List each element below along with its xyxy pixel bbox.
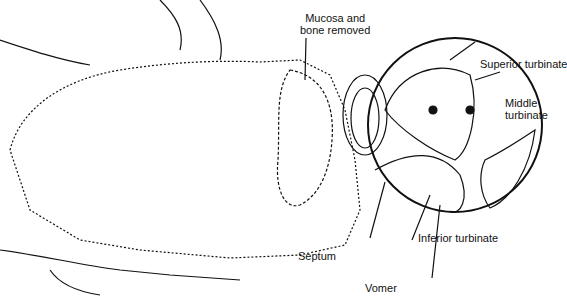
label-line-2: bone removed: [300, 24, 370, 36]
label-superior-turbinate: Superior turbinate: [480, 58, 567, 70]
label-septum: Septum: [298, 250, 336, 262]
label-middle-turbinate: Middle turbinate: [505, 97, 548, 121]
label-line-2: turbinate: [505, 109, 548, 121]
label-inferior-turbinate: Inferior turbinate: [418, 232, 498, 244]
label-line-1: Mucosa and: [300, 12, 370, 24]
label-vomer: Vomer: [365, 282, 397, 294]
label-mucosa-bone-removed: Mucosa and bone removed: [300, 12, 370, 36]
label-line-1: Middle: [505, 97, 548, 109]
